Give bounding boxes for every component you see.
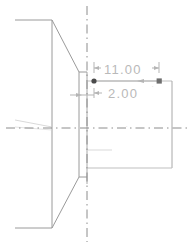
dim-main-arrowhead [137, 79, 144, 83]
dimension-line-main[interactable] [94, 79, 159, 83]
cad-vector-layer [0, 0, 193, 248]
dimension-value-2[interactable]: 2.00 [108, 87, 138, 100]
grip-point-right[interactable] [157, 78, 162, 83]
body-outline-upper [15, 20, 79, 228]
cone-taper-upper [52, 20, 79, 72]
dim11-right-arrowhead [154, 66, 159, 70]
internal-taper-upper [15, 120, 52, 127]
body-outline-lower [15, 177, 79, 228]
cad-drawing-canvas[interactable]: 11.00 2.00 ⋅ ⋅ ⋅ [0, 0, 193, 248]
grip-tag-center: ⋅ [126, 125, 127, 129]
grip-point-left[interactable] [91, 78, 96, 83]
dimension-2-graphics[interactable] [94, 88, 102, 98]
dimension-value-11[interactable]: 11.00 [104, 63, 142, 76]
dim11-left-arrowhead [94, 66, 99, 70]
dim2-left-arrowhead [94, 91, 99, 95]
grip-tag-right: ⋅ [152, 85, 153, 89]
flange-witness-lines [70, 93, 112, 150]
grip-tag-left: ⋅ [90, 85, 91, 89]
cone-taper-lower [52, 177, 79, 228]
